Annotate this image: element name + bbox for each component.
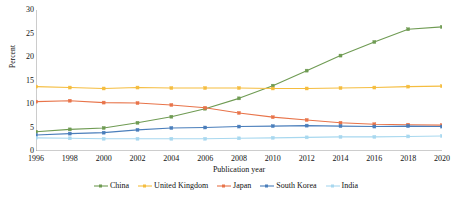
y-tick-label: 25	[12, 30, 34, 38]
data-point-marker	[373, 135, 376, 138]
data-point-marker	[373, 125, 376, 128]
legend-marker	[99, 184, 102, 187]
chart-legend: ChinaUnited KingdomJapanSouth KoreaIndia	[0, 181, 452, 190]
data-point-marker	[407, 85, 410, 88]
data-point-marker	[204, 106, 207, 109]
x-axis-title: Publication year	[36, 165, 442, 174]
data-point-marker	[102, 87, 105, 90]
data-point-marker	[407, 135, 410, 138]
data-point-marker	[204, 126, 207, 129]
data-point-marker	[238, 87, 241, 90]
data-point-marker	[36, 136, 38, 139]
data-point-marker	[238, 111, 241, 114]
data-point-marker	[305, 87, 308, 90]
data-point-marker	[102, 101, 105, 104]
legend-swatch-icon	[326, 182, 340, 190]
data-point-marker	[136, 128, 139, 131]
data-point-marker	[68, 137, 71, 140]
x-tick-label: 2020	[422, 154, 452, 163]
y-tick-label: 20	[12, 53, 34, 61]
data-point-marker	[339, 121, 342, 124]
data-point-marker	[238, 97, 241, 100]
legend-swatch-icon	[138, 182, 152, 190]
data-point-marker	[170, 115, 173, 118]
series-japan	[36, 99, 442, 126]
data-point-marker	[271, 125, 274, 128]
data-point-marker	[36, 85, 38, 88]
data-point-marker	[36, 100, 38, 103]
data-point-marker	[136, 102, 139, 105]
data-point-marker	[271, 136, 274, 139]
legend-swatch-icon	[217, 182, 231, 190]
y-tick-label: 5	[12, 124, 34, 132]
data-point-marker	[373, 86, 376, 89]
y-tick-label: 15	[12, 77, 34, 85]
legend-label: South Korea	[276, 181, 316, 190]
data-point-marker	[305, 136, 308, 139]
data-point-marker	[271, 87, 274, 90]
series-line	[36, 27, 442, 132]
legend-label: India	[342, 181, 358, 190]
data-point-marker	[170, 126, 173, 129]
legend-marker	[222, 184, 225, 187]
data-point-marker	[102, 131, 105, 134]
data-point-marker	[271, 116, 274, 119]
series-india	[36, 134, 442, 140]
data-point-marker	[339, 87, 342, 90]
legend-marker	[265, 184, 268, 187]
legend-marker	[143, 184, 146, 187]
data-point-marker	[170, 137, 173, 140]
legend-item-china[interactable]: China	[94, 181, 129, 190]
data-point-marker	[36, 130, 38, 133]
data-point-marker	[102, 137, 105, 140]
plot-area	[36, 10, 442, 151]
data-point-marker	[68, 132, 71, 135]
data-point-marker	[170, 103, 173, 106]
series-united-kingdom	[36, 85, 442, 90]
legend-label: United Kingdom	[154, 181, 208, 190]
data-point-marker	[68, 99, 71, 102]
data-point-marker	[102, 126, 105, 129]
data-point-marker	[136, 86, 139, 89]
data-point-marker	[68, 86, 71, 89]
data-point-marker	[441, 25, 443, 28]
data-point-marker	[407, 125, 410, 128]
legend-swatch-icon	[260, 182, 274, 190]
legend-item-india[interactable]: India	[326, 181, 358, 190]
data-point-marker	[339, 135, 342, 138]
y-tick-label: 10	[12, 100, 34, 108]
data-point-marker	[204, 137, 207, 140]
y-axis-tick-labels: 051015202530	[8, 10, 34, 151]
legend-marker	[331, 184, 334, 187]
data-point-marker	[305, 69, 308, 72]
data-point-marker	[238, 137, 241, 140]
legend-item-south-korea[interactable]: South Korea	[260, 181, 316, 190]
data-point-marker	[305, 118, 308, 121]
data-point-marker	[68, 128, 71, 131]
line-chart-figure: Percent 051015202530 1996199820002002200…	[0, 0, 452, 202]
data-point-marker	[339, 125, 342, 128]
data-point-marker	[305, 124, 308, 127]
legend-label: China	[110, 181, 129, 190]
legend-swatch-icon	[94, 182, 108, 190]
data-point-marker	[170, 87, 173, 90]
legend-item-japan[interactable]: Japan	[217, 181, 251, 190]
data-point-marker	[339, 54, 342, 57]
legend-item-united-kingdom[interactable]: United Kingdom	[138, 181, 208, 190]
data-point-marker	[136, 121, 139, 124]
data-point-marker	[136, 137, 139, 140]
series-south-korea	[36, 124, 442, 136]
data-point-marker	[373, 40, 376, 43]
data-point-marker	[36, 134, 38, 137]
series-china	[36, 25, 442, 133]
y-tick-label: 30	[12, 6, 34, 14]
data-point-marker	[441, 134, 443, 137]
plot-svg	[36, 10, 442, 151]
data-point-marker	[441, 125, 443, 128]
data-point-marker	[441, 85, 443, 88]
data-point-marker	[204, 87, 207, 90]
legend-label: Japan	[233, 181, 251, 190]
data-point-marker	[271, 84, 274, 87]
data-point-marker	[407, 28, 410, 31]
data-point-marker	[238, 125, 241, 128]
